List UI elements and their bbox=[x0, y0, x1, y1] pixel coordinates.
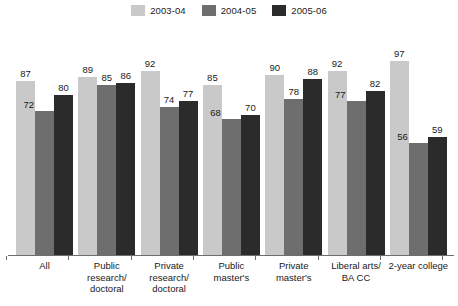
x-axis-label-all: All bbox=[9, 260, 81, 272]
bar-private-research-doctoral-2004-05: 74 bbox=[160, 107, 179, 255]
bar-chart: 2003-04 2004-05 2005-06 87 72 80 89 bbox=[0, 0, 458, 306]
legend-item-2004-05: 2004-05 bbox=[202, 5, 257, 16]
x-axis-label-public-research-doctoral: Publicresearch/doctoral bbox=[71, 260, 143, 295]
x-axis-label-line: BA CC bbox=[320, 272, 392, 284]
bar-private-masters-2003-04: 90 bbox=[265, 75, 284, 255]
bar-private-research-doctoral-2003-04: 92 bbox=[141, 71, 160, 255]
legend-item-2003-04: 2003-04 bbox=[131, 5, 186, 16]
bar-private-research-doctoral-2005-06: 77 bbox=[179, 101, 198, 255]
bar-group-liberal-arts-ba-cc: 92 77 82 bbox=[328, 29, 385, 255]
bar-value-label: 74 bbox=[164, 94, 175, 105]
x-axis-label-line: research/ bbox=[133, 272, 205, 284]
bar-value-label: 78 bbox=[288, 86, 299, 97]
bar-liberal-arts-ba-cc-2004-05: 77 bbox=[347, 101, 366, 255]
bar-all-2005-06: 80 bbox=[54, 95, 73, 255]
bar-public-masters-2005-06: 70 bbox=[241, 115, 260, 255]
bar-value-label: 68 bbox=[210, 107, 222, 118]
bar-2-year-college-2003-04: 97 bbox=[390, 61, 409, 255]
x-axis-label-private-masters: Privatemaster's bbox=[258, 260, 330, 283]
bar-group-private-masters: 90 78 88 bbox=[265, 29, 322, 255]
legend-swatch-2003-04 bbox=[131, 5, 145, 16]
x-axis-label-line: Private bbox=[258, 260, 330, 272]
bar-value-label: 59 bbox=[432, 124, 443, 135]
bar-group-public-research-doctoral: 89 85 86 bbox=[78, 29, 135, 255]
bar-2-year-college-2005-06: 59 bbox=[428, 137, 447, 255]
legend-swatch-2004-05 bbox=[202, 5, 216, 16]
bar-value-label: 85 bbox=[102, 72, 113, 83]
bar-group-public-masters: 85 68 70 bbox=[203, 29, 260, 255]
x-axis-label-line: Liberal arts/ bbox=[320, 260, 392, 272]
x-axis-baseline bbox=[8, 255, 454, 256]
bar-value-label: 92 bbox=[332, 58, 343, 69]
bar-value-label: 87 bbox=[20, 68, 31, 79]
bar-value-label: 72 bbox=[23, 99, 35, 110]
x-axis-label-line: doctoral bbox=[133, 283, 205, 295]
x-axis-label-line: doctoral bbox=[71, 283, 143, 295]
bar-public-masters-2004-05: 68 bbox=[222, 119, 241, 255]
legend-label-2003-04: 2003-04 bbox=[150, 5, 186, 16]
bar-2-year-college-2004-05: 56 bbox=[409, 143, 428, 255]
bar-value-label: 86 bbox=[121, 70, 132, 81]
x-axis-label-liberal-arts-ba-cc: Liberal arts/BA CC bbox=[320, 260, 392, 283]
legend-label-2005-06: 2005-06 bbox=[291, 5, 327, 16]
bar-value-label: 70 bbox=[245, 102, 256, 113]
bar-public-research-doctoral-2003-04: 89 bbox=[78, 77, 97, 255]
bar-public-research-doctoral-2004-05: 85 bbox=[97, 85, 116, 255]
bar-group-2-year-college: 97 56 59 bbox=[390, 29, 447, 255]
bar-value-label: 88 bbox=[307, 66, 318, 77]
x-axis-label-line: Public bbox=[195, 260, 267, 272]
bar-value-label: 77 bbox=[183, 88, 194, 99]
x-axis-label-line: 2-year college bbox=[382, 260, 454, 272]
bar-public-research-doctoral-2005-06: 86 bbox=[116, 83, 135, 255]
x-axis-label-line: master's bbox=[258, 272, 330, 284]
x-axis-label-public-masters: Publicmaster's bbox=[195, 260, 267, 283]
bar-value-label: 85 bbox=[207, 72, 218, 83]
legend-label-2004-05: 2004-05 bbox=[221, 5, 257, 16]
x-axis-label-line: research/ bbox=[71, 272, 143, 284]
bar-liberal-arts-ba-cc-2005-06: 82 bbox=[366, 91, 385, 255]
bar-private-masters-2005-06: 88 bbox=[303, 79, 322, 255]
legend-item-2005-06: 2005-06 bbox=[272, 5, 327, 16]
bar-value-label: 89 bbox=[83, 64, 94, 75]
bar-all-2004-05: 72 bbox=[35, 111, 54, 255]
x-axis-label-private-research-doctoral: Privateresearch/doctoral bbox=[133, 260, 205, 295]
x-axis-label-line: Public bbox=[71, 260, 143, 272]
bar-value-label: 97 bbox=[394, 48, 405, 59]
bar-value-label: 92 bbox=[145, 58, 156, 69]
chart-legend: 2003-04 2004-05 2005-06 bbox=[0, 5, 458, 16]
bar-value-label: 56 bbox=[397, 131, 409, 142]
legend-swatch-2005-06 bbox=[272, 5, 286, 16]
bar-value-label: 82 bbox=[370, 78, 381, 89]
bar-group-all: 87 72 80 bbox=[16, 29, 73, 255]
x-axis-label-line: Private bbox=[133, 260, 205, 272]
bar-value-label: 90 bbox=[269, 62, 280, 73]
bar-value-label: 80 bbox=[58, 82, 69, 93]
plot-area: 87 72 80 89 85 86 92 74 bbox=[0, 28, 458, 256]
x-axis-label-line: master's bbox=[195, 272, 267, 284]
bar-group-private-research-doctoral: 92 74 77 bbox=[141, 29, 198, 255]
x-axis-label-line: All bbox=[9, 260, 81, 272]
bar-private-masters-2004-05: 78 bbox=[284, 99, 303, 255]
x-axis-label-2-year-college: 2-year college bbox=[382, 260, 454, 272]
x-axis-labels: All Publicresearch/doctoral Privateresea… bbox=[0, 260, 458, 306]
bar-value-label: 77 bbox=[335, 89, 347, 100]
